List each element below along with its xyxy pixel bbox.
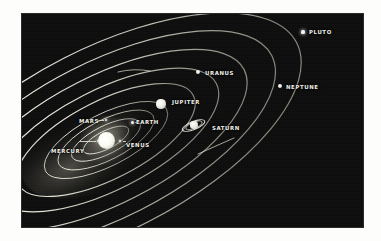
label-uranus: URANUS: [205, 71, 234, 76]
label-mars: MARS: [79, 119, 99, 124]
label-jupiter: JUPITER: [172, 100, 200, 105]
planet-earth: [131, 121, 134, 124]
leader-line-mercury: [80, 141, 96, 142]
label-earth: EARTH: [136, 120, 159, 125]
sun: [98, 132, 115, 149]
solar-system-plate: MERCURYVENUSEARTHMARSJUPITERSATURNURANUS…: [22, 14, 363, 227]
label-saturn: SATURN: [212, 126, 240, 131]
label-venus: VENUS: [126, 143, 150, 148]
label-mercury: MERCURY: [51, 149, 85, 154]
label-neptune: NEPTUNE: [286, 85, 319, 90]
planet-jupiter: [156, 99, 165, 108]
figure-page: MERCURYVENUSEARTHMARSJUPITERSATURNURANUS…: [0, 0, 381, 241]
label-pluto: PLUTO: [309, 30, 332, 35]
planet-pluto: [301, 30, 304, 33]
